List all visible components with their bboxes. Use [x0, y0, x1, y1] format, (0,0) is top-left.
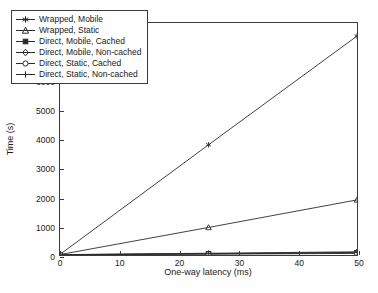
- legend-item[interactable]: Wrapped, Static: [15, 25, 142, 36]
- y-tick-label: 3000: [36, 165, 55, 174]
- open-circle-marker-icon: [15, 58, 36, 69]
- y-tick-mark: [60, 169, 64, 170]
- x-tick-mark: [180, 251, 181, 255]
- legend-item[interactable]: Direct, Static, Cached: [15, 58, 142, 69]
- legend-label: Wrapped, Static: [39, 25, 99, 36]
- legend-label: Wrapped, Mobile: [39, 14, 103, 25]
- x-tick-mark: [60, 251, 61, 255]
- legend-item[interactable]: Wrapped, Mobile: [15, 14, 142, 25]
- series-line: [60, 200, 357, 255]
- y-tick-label: 0: [50, 253, 55, 262]
- legend-item[interactable]: Direct, Mobile, Non-cached: [15, 47, 142, 58]
- x-tick-mark: [239, 251, 240, 255]
- x-tick-label: 50: [354, 259, 363, 268]
- y-tick-mark: [60, 199, 64, 200]
- y-tick-label: 1000: [36, 224, 55, 233]
- y-tick-mark: [60, 111, 64, 112]
- legend-label: Direct, Mobile, Non-cached: [39, 47, 142, 58]
- triangle-marker-icon: [15, 25, 36, 36]
- legend-item[interactable]: Direct, Mobile, Cached: [15, 36, 142, 47]
- y-tick-label: 5000: [36, 107, 55, 116]
- legend-item[interactable]: Direct, Static, Non-cached: [15, 69, 142, 80]
- y-tick-label: 2000: [36, 194, 55, 203]
- filled-square-marker-icon: [15, 36, 36, 47]
- chart-legend: Wrapped, Mobile Wrapped, Static Direct, …: [11, 10, 148, 84]
- diamond-marker-icon: [15, 47, 36, 58]
- y-tick-mark: [60, 140, 64, 141]
- x-tick-label: 20: [175, 259, 184, 268]
- x-tick-mark: [120, 251, 121, 255]
- x-tick-label: 10: [115, 259, 124, 268]
- x-tick-label: 0: [58, 259, 63, 268]
- plus-marker-icon: [15, 69, 36, 80]
- star-marker-icon: [15, 14, 36, 25]
- series-1: [60, 197, 357, 255]
- x-tick-mark: [359, 251, 360, 255]
- y-axis-title: Time (s): [5, 123, 15, 156]
- legend-label: Direct, Static, Cached: [39, 58, 121, 69]
- y-tick-mark: [60, 228, 64, 229]
- legend-label: Direct, Static, Non-cached: [39, 69, 138, 80]
- y-tick-label: 4000: [36, 136, 55, 145]
- x-tick-label: 40: [294, 259, 303, 268]
- x-axis-title: One-way latency (ms): [164, 267, 252, 277]
- x-tick-mark: [299, 251, 300, 255]
- chart-figure: Time (s) One-way latency (ms) 0100020003…: [0, 0, 378, 293]
- x-tick-label: 30: [235, 259, 244, 268]
- legend-label: Direct, Mobile, Cached: [39, 36, 125, 47]
